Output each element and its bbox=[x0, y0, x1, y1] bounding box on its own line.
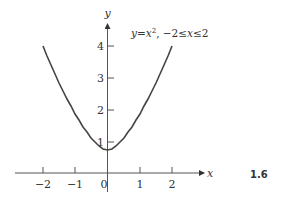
x-tick-label: 2 bbox=[169, 178, 176, 191]
figure-number: 1.6 bbox=[250, 169, 268, 180]
y-tick-label: 2 bbox=[97, 104, 104, 117]
y-axis-label: y bbox=[103, 7, 111, 20]
y-tick-label: 3 bbox=[97, 72, 104, 85]
x-tick-label: 0 bbox=[101, 178, 108, 191]
x-tick-label: −2 bbox=[35, 178, 51, 191]
parabola-chart: −2 −1 0 1 2 1 2 3 4 x y y=x2, −2≤x≤2 1.6 bbox=[0, 0, 290, 202]
x-axis-label: x bbox=[207, 167, 214, 180]
curve-annotation: y=x2, −2≤x≤2 bbox=[130, 27, 209, 39]
x-tick-label: −1 bbox=[67, 178, 83, 191]
y-tick-label: 4 bbox=[97, 40, 104, 53]
y-ticks bbox=[108, 46, 115, 142]
x-tick-label: 1 bbox=[137, 178, 144, 191]
